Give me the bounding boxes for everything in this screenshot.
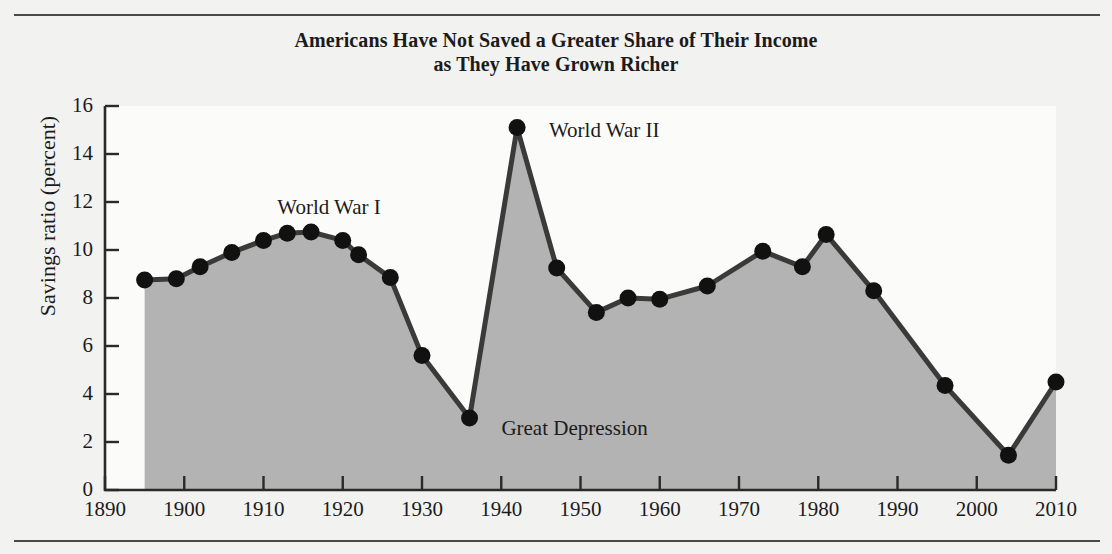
y-tick-label: 8: [53, 285, 93, 310]
data-point-marker: [548, 260, 565, 277]
data-point-marker: [136, 272, 153, 289]
x-tick-label: 2010: [1021, 497, 1091, 522]
x-tick-label: 1910: [229, 497, 299, 522]
data-point-marker: [334, 232, 351, 249]
data-point-marker: [192, 258, 209, 275]
y-tick-label: 16: [53, 93, 93, 118]
data-point-marker: [754, 243, 771, 260]
data-point-marker: [350, 246, 367, 263]
data-point-marker: [1000, 447, 1017, 464]
x-tick-label: 1980: [783, 497, 853, 522]
data-point-marker: [937, 377, 954, 394]
x-tick-label: 2000: [942, 497, 1012, 522]
x-tick-label: 1930: [387, 497, 457, 522]
data-point-marker: [414, 347, 431, 364]
data-point-marker: [588, 304, 605, 321]
data-point-marker: [255, 232, 272, 249]
data-point-marker: [651, 291, 668, 308]
chart-figure: Americans Have Not Saved a Greater Share…: [0, 0, 1112, 554]
x-tick-label: 1970: [704, 497, 774, 522]
chart-annotation: World War II: [549, 118, 660, 143]
y-tick-label: 10: [53, 237, 93, 262]
x-tick-label: 1940: [466, 497, 536, 522]
x-tick-label: 1950: [546, 497, 616, 522]
data-point-marker: [509, 119, 526, 136]
y-tick-label: 4: [53, 381, 93, 406]
y-tick-label: 12: [53, 189, 93, 214]
data-point-marker: [303, 224, 320, 241]
y-tick-label: 2: [53, 429, 93, 454]
x-tick-label: 1990: [863, 497, 933, 522]
x-tick-label: 1900: [149, 497, 219, 522]
data-point-marker: [279, 225, 296, 242]
data-point-marker: [382, 269, 399, 286]
y-tick-label: 6: [53, 333, 93, 358]
plot-area: [0, 0, 1112, 554]
x-tick-label: 1920: [308, 497, 378, 522]
data-point-marker: [1048, 374, 1065, 391]
data-point-marker: [699, 278, 716, 295]
data-point-marker: [620, 290, 637, 307]
x-tick-label: 1890: [70, 497, 140, 522]
data-point-marker: [865, 282, 882, 299]
x-tick-label: 1960: [625, 497, 695, 522]
data-point-marker: [168, 270, 185, 287]
data-point-marker: [461, 410, 478, 427]
y-tick-label: 14: [53, 141, 93, 166]
chart-annotation: World War I: [277, 195, 381, 220]
data-point-marker: [223, 244, 240, 261]
data-point-marker: [794, 258, 811, 275]
data-point-marker: [818, 226, 835, 243]
chart-annotation: Great Depression: [501, 416, 647, 441]
